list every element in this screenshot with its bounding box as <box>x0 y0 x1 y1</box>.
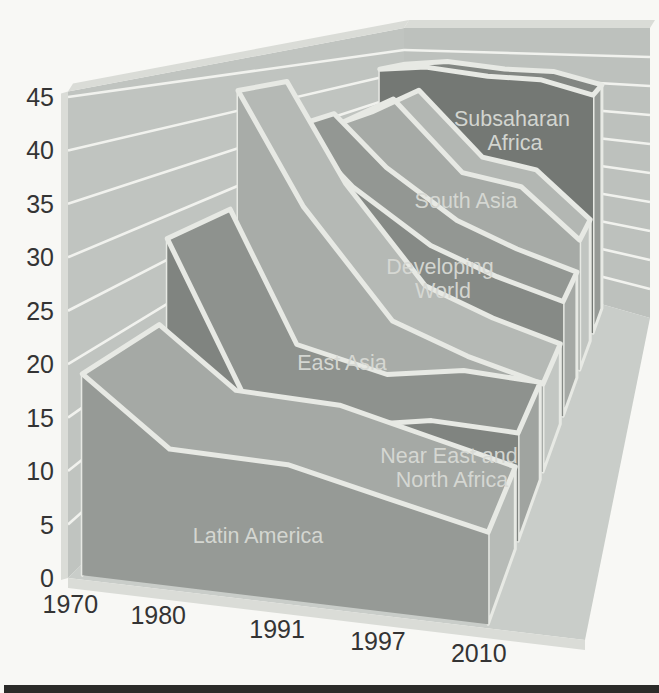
3d-area-chart: Latin AmericaNear East andNorth AfricaEa… <box>0 0 659 693</box>
y-tick-label-20: 20 <box>26 350 54 378</box>
x-axis-label-2010: 2010 <box>451 639 507 667</box>
x-axis-label-1997: 1997 <box>350 627 406 655</box>
y-tick-label-0: 0 <box>40 564 54 592</box>
y-tick-label-15: 15 <box>26 404 54 432</box>
book-figure-page: Latin AmericaNear East andNorth AfricaEa… <box>0 0 659 693</box>
y-tick-label-40: 40 <box>26 136 54 164</box>
ribbon-subsaharan-africa-right-cap <box>593 85 602 333</box>
y-tick-label-30: 30 <box>26 243 54 271</box>
page-bottom-rule <box>4 685 659 693</box>
y-tick-label-5: 5 <box>40 511 54 539</box>
y-tick-label-45: 45 <box>26 83 54 111</box>
x-axis-label-1991: 1991 <box>249 615 305 643</box>
y-tick-label-10: 10 <box>26 457 54 485</box>
back-wall-top-rim <box>404 20 655 28</box>
x-axis-label-1970: 1970 <box>43 590 99 618</box>
y-tick-label-35: 35 <box>26 190 54 218</box>
y-tick-label-25: 25 <box>26 297 54 325</box>
series-label-latin-america: Latin America <box>193 524 323 548</box>
series-label-east-asia: East Asia <box>297 351 387 375</box>
series-label-near-east-and-north-africa: Near East andNorth Africa <box>380 444 517 492</box>
left-wall-side-rim <box>61 92 68 580</box>
series-label-south-asia: South Asia <box>415 189 518 213</box>
x-axis-label-1980: 1980 <box>130 601 186 629</box>
ribbon-south-asia-right-cap <box>580 220 591 371</box>
